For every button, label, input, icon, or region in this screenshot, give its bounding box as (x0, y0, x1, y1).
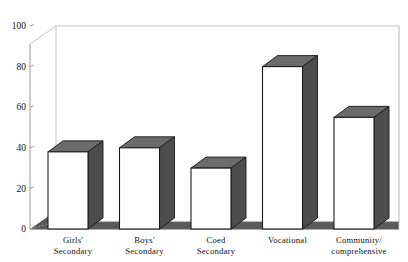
bar-side-face (88, 141, 103, 229)
y-tick-20: 20 (17, 184, 35, 194)
bar-4 (334, 106, 389, 229)
y-tick-100: 100 (12, 21, 34, 31)
x-category-label-4: Community/ (336, 235, 382, 245)
bar-1 (120, 137, 175, 229)
y-tick-label-40: 40 (17, 143, 27, 153)
bar-side-face (303, 56, 318, 229)
y-tick-label-100: 100 (12, 21, 27, 31)
y-tick-label-60: 60 (17, 102, 27, 112)
x-category-label-2: Secondary (197, 246, 236, 256)
bar-0 (48, 141, 103, 229)
y-tick-40: 40 (17, 143, 35, 153)
depth-edge-top-left (30, 26, 56, 44)
bar-side-face (374, 106, 389, 229)
bar-front-face (120, 148, 160, 229)
y-tick-80: 80 (17, 62, 35, 72)
bar-side-face (160, 137, 175, 229)
bar-front-face (191, 168, 231, 229)
y-axis: 0 20 40 60 80 100 (12, 21, 34, 234)
x-category-label-4: comprehensive (331, 246, 386, 256)
x-axis-labels: Girls'SecondaryBoys'SecondaryCoedSeconda… (54, 235, 387, 256)
bar-front-face (334, 117, 374, 229)
bar-2 (191, 157, 246, 229)
x-category-label-2: Coed (206, 235, 226, 245)
bar-front-face (48, 152, 88, 229)
y-tick-label-80: 80 (17, 62, 27, 72)
y-tick-label-0: 0 (21, 224, 26, 234)
bar-front-face (263, 67, 303, 229)
y-tick-label-20: 20 (17, 184, 27, 194)
clipped-text-remnant-strip (0, 0, 408, 9)
x-category-label-3: Vocational (268, 235, 307, 245)
x-category-label-1: Boys' (134, 235, 155, 245)
x-category-label-0: Secondary (54, 246, 93, 256)
bar-3 (263, 56, 318, 229)
chart-canvas: 0 20 40 60 80 100 (0, 0, 408, 262)
bar-chart: 0 20 40 60 80 100 (0, 0, 408, 262)
x-category-label-1: Secondary (125, 246, 164, 256)
y-tick-60: 60 (17, 102, 35, 112)
bar-side-face (231, 157, 246, 229)
x-category-label-0: Girls' (63, 235, 83, 245)
